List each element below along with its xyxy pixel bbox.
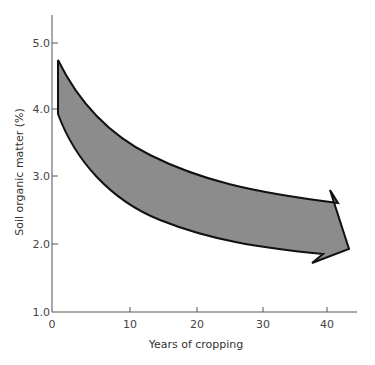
decline-band-arrow bbox=[58, 60, 349, 263]
soil-organic-matter-chart: 5.0 4.0 3.0 2.0 1.0 0 10 20 30 40 Years … bbox=[0, 0, 375, 365]
y-tick-label: 4.0 bbox=[33, 103, 51, 116]
y-axis-title: Soil organic matter (%) bbox=[13, 108, 26, 236]
x-ticks bbox=[130, 307, 327, 312]
x-tick-label: 10 bbox=[123, 318, 137, 331]
y-tick-label: 3.0 bbox=[33, 170, 51, 183]
x-tick-label: 40 bbox=[320, 318, 334, 331]
x-tick-label: 0 bbox=[49, 318, 56, 331]
y-tick-label: 2.0 bbox=[33, 238, 51, 251]
x-tick-label: 20 bbox=[190, 318, 204, 331]
y-tick-label: 5.0 bbox=[33, 37, 51, 50]
y-tick-label: 1.0 bbox=[33, 306, 51, 319]
x-tick-label: 30 bbox=[256, 318, 270, 331]
x-axis-title: Years of cropping bbox=[148, 338, 244, 351]
